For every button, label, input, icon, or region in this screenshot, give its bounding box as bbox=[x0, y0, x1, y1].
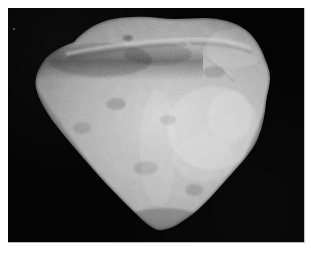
page-margin-left bbox=[0, 0, 8, 257]
photo-panel bbox=[8, 8, 305, 243]
specimen-image bbox=[8, 8, 305, 243]
specimen-body bbox=[8, 8, 305, 243]
photo-page bbox=[0, 0, 311, 257]
page-margin-top bbox=[0, 0, 311, 8]
photo-caption bbox=[8, 245, 305, 255]
page-margin-right bbox=[305, 0, 311, 257]
photo-bottom-seam bbox=[8, 242, 305, 243]
rock-specimen-drawing bbox=[8, 8, 305, 243]
photo-right-seam bbox=[304, 8, 305, 243]
